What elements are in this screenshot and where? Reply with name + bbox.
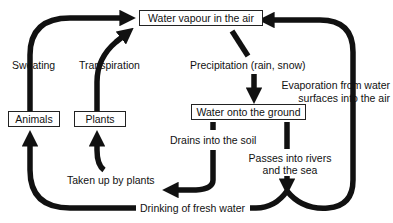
node-animals: Animals xyxy=(8,111,60,127)
node-water-vapour: Water vapour in the air xyxy=(139,10,263,26)
water-cycle-diagram: Water vapour in the air Water onto the g… xyxy=(0,0,393,223)
label-evaporation-line1: Evaporation from water xyxy=(278,79,390,91)
precipitation-arrow-top xyxy=(232,31,248,56)
label-drinking-fresh-water: Drinking of fresh water xyxy=(140,202,245,214)
drinking-arrow xyxy=(250,191,287,208)
label-sweating: Sweating xyxy=(12,59,55,71)
node-water-onto-ground: Water onto the ground xyxy=(191,104,306,120)
node-plants: Plants xyxy=(74,111,126,127)
taken-up-arrow xyxy=(172,150,213,190)
label-taken-up-by-plants: Taken up by plants xyxy=(67,174,155,186)
label-passes-rivers-line2: and the sea xyxy=(245,164,335,176)
plants-uptake-arrow xyxy=(97,140,104,170)
label-transpiration: Transpiration xyxy=(79,59,140,71)
label-passes-rivers-line1: Passes into rivers xyxy=(245,152,335,164)
label-evaporation-line2: surfaces into the air xyxy=(278,92,390,104)
label-precipitation: Precipitation (rain, snow) xyxy=(190,59,306,71)
label-drains-into-soil: Drains into the soil xyxy=(170,134,256,146)
transpiration-arrow xyxy=(97,34,126,111)
